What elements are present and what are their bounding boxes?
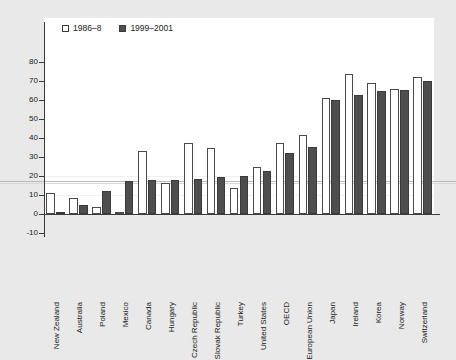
- y-tick-mark: [39, 62, 44, 63]
- bar-old: [390, 89, 399, 214]
- bar-old: [367, 83, 376, 214]
- y-tick-mark: [39, 119, 44, 120]
- x-tick-label: OECD: [282, 302, 291, 325]
- x-tick-label: Ireland: [351, 302, 360, 326]
- x-tick-label: Norway: [397, 302, 406, 329]
- x-tick-label: United States: [259, 302, 268, 350]
- y-tick-mark: [39, 81, 44, 82]
- x-tick-label: Switzerland: [420, 302, 429, 343]
- x-tick-label: Japan: [328, 302, 337, 324]
- x-tick-label: European Union: [305, 302, 314, 360]
- y-tick-label: 20: [2, 172, 38, 180]
- y-tick-mark: [39, 195, 44, 196]
- bar-old: [138, 151, 147, 214]
- x-axis-category-labels: New ZealandAustraliaPolandMexicoCanadaHu…: [44, 216, 434, 304]
- y-tick-label: 70: [2, 77, 38, 85]
- bar-series-container: [44, 18, 434, 214]
- bar-new: [148, 180, 157, 214]
- x-tick-label: Turkey: [236, 302, 245, 326]
- x-tick-label: Korea: [374, 302, 383, 323]
- y-tick-label: -10: [2, 229, 38, 237]
- bar-old: [276, 143, 285, 214]
- y-tick-label: 10: [2, 191, 38, 199]
- bar-old: [207, 148, 216, 214]
- x-tick-label: Mexico: [121, 302, 130, 327]
- bar-old: [345, 74, 354, 214]
- y-tick-mark: [39, 157, 44, 158]
- y-tick-mark: [39, 100, 44, 101]
- y-tick-label: 0: [2, 210, 38, 218]
- x-tick-label: Canada: [144, 302, 153, 330]
- x-tick-label: New Zealand: [52, 302, 61, 349]
- x-tick-label: Czech Republic: [190, 302, 199, 358]
- bar-new: [56, 212, 65, 214]
- y-tick-label: 50: [2, 115, 38, 123]
- bar-new: [263, 171, 272, 214]
- x-tick-label: Hungary: [167, 302, 176, 332]
- y-tick-mark: [39, 214, 44, 215]
- bar-old: [253, 167, 262, 215]
- y-tick-mark: [39, 233, 44, 234]
- bar-new: [377, 91, 386, 214]
- bar-old: [92, 207, 101, 214]
- bar-old: [46, 193, 55, 214]
- y-tick-label: 30: [2, 153, 38, 161]
- bar-old: [184, 143, 193, 214]
- bar-new: [171, 180, 180, 214]
- bar-new: [217, 177, 226, 214]
- bar-new: [308, 147, 317, 214]
- bar-old: [161, 183, 170, 214]
- bar-old: [69, 198, 78, 214]
- bar-new: [125, 181, 134, 214]
- x-tick-label: Australia: [75, 302, 84, 333]
- bar-old: [413, 77, 422, 214]
- y-tick-mark: [39, 176, 44, 177]
- bar-new: [285, 153, 294, 214]
- x-tick-label: Poland: [98, 302, 107, 327]
- bar-new: [331, 100, 340, 214]
- bar-new: [354, 95, 363, 214]
- y-tick-mark: [39, 138, 44, 139]
- x-axis-line: [44, 214, 440, 215]
- bar-new: [194, 179, 203, 214]
- bar-new: [79, 205, 88, 214]
- x-tick-label: Slovak Republic: [213, 302, 222, 359]
- bar-new: [240, 176, 249, 214]
- bar-old: [115, 212, 124, 214]
- bar-old: [299, 135, 308, 214]
- y-tick-label: 80: [2, 58, 38, 66]
- y-axis-labels: 80706050403020100-10: [0, 0, 38, 305]
- bar-new: [423, 81, 432, 214]
- bar-new: [400, 90, 409, 214]
- y-tick-label: 60: [2, 96, 38, 104]
- bar-old: [230, 188, 239, 214]
- y-tick-label: 40: [2, 134, 38, 142]
- bar-new: [102, 191, 111, 214]
- bar-old: [322, 98, 331, 214]
